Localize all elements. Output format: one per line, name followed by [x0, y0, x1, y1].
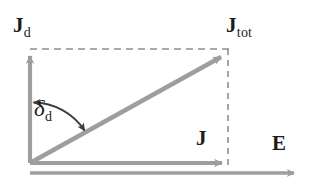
label-e-symbol: E: [272, 131, 286, 155]
label-jd: Jd: [13, 15, 31, 36]
label-jtot: Jtot: [226, 15, 252, 36]
label-jtot-symbol: J: [226, 13, 237, 37]
vector-diagram-figure: Jd Jtot δd J E: [0, 0, 313, 188]
label-e: E: [272, 133, 286, 154]
diagram-canvas: [0, 0, 313, 188]
vector-jtot: [30, 57, 221, 163]
label-jd-symbol: J: [13, 13, 24, 37]
label-jtot-subscript: tot: [237, 25, 252, 40]
label-delta-d: δd: [34, 97, 52, 120]
label-delta-subscript: d: [45, 109, 52, 124]
label-j-symbol: J: [196, 126, 207, 150]
label-j: J: [196, 128, 207, 149]
label-jd-subscript: d: [24, 25, 31, 40]
label-delta-symbol: δ: [34, 96, 45, 121]
